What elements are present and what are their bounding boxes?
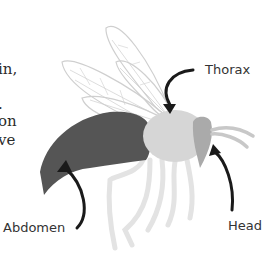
label-head: Head xyxy=(228,218,262,233)
label-thorax: Thorax xyxy=(205,62,250,77)
legs xyxy=(109,155,192,248)
antennae xyxy=(212,128,253,147)
label-abdomen: Abdomen xyxy=(3,220,65,235)
abdomen-shape xyxy=(40,112,151,195)
head-shape xyxy=(193,117,212,168)
